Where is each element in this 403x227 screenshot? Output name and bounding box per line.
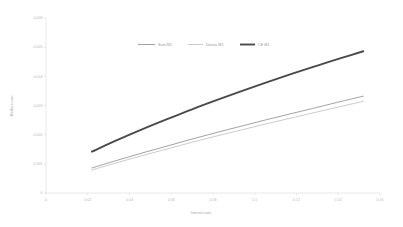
- x-tick-label: 0.06: [168, 198, 175, 202]
- chart-container: 00.0010.0020.0030.0040.0050.006 00.020.0…: [0, 0, 403, 227]
- y-tick-label: 0.005: [33, 45, 42, 49]
- y-tick-label: 0.001: [33, 162, 42, 166]
- x-tick-label: 0.04: [126, 198, 133, 202]
- x-tick-label: 0.1: [252, 198, 257, 202]
- legend-label-0[interactable]: Sum M1: [158, 43, 172, 47]
- x-tick-label: 0.14: [335, 198, 342, 202]
- y-axis-title: Welfare cost: [10, 95, 14, 117]
- x-tick-label: 0.12: [293, 198, 300, 202]
- y-tick-label: 0.003: [33, 104, 42, 108]
- y-tick-label: 0.002: [33, 133, 42, 137]
- y-tick-label: 0.004: [33, 75, 42, 79]
- x-axis-title: Interest rate: [191, 211, 211, 215]
- x-tick-label: 0.08: [210, 198, 217, 202]
- x-tick-label: 0: [45, 198, 47, 202]
- y-tick-label: 0: [40, 191, 42, 195]
- y-tick-label: 0.006: [33, 16, 42, 20]
- line-chart: 00.0010.0020.0030.0040.0050.006 00.020.0…: [0, 0, 403, 227]
- legend-label-1[interactable]: Divisia M1: [206, 43, 224, 47]
- legend-label-2[interactable]: CE M1: [258, 43, 270, 47]
- x-tick-label: 0.02: [84, 198, 91, 202]
- x-tick-label: 0.16: [377, 198, 384, 202]
